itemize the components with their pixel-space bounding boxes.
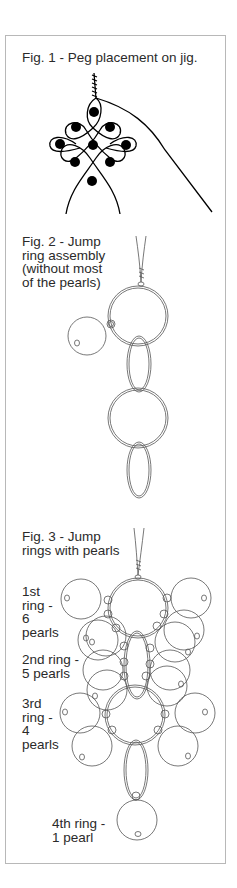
jump-ring-3 — [105, 685, 165, 745]
pearl — [171, 578, 211, 618]
fig3-rings-with-pearls — [0, 0, 237, 888]
pearl — [60, 693, 100, 733]
pearl — [147, 666, 187, 706]
pearl — [175, 693, 215, 733]
pearl — [117, 800, 157, 840]
pearl — [155, 622, 195, 662]
pearl — [61, 579, 101, 619]
pearl — [72, 726, 112, 766]
pearl — [158, 726, 198, 766]
jump-ring-4 — [124, 740, 148, 800]
